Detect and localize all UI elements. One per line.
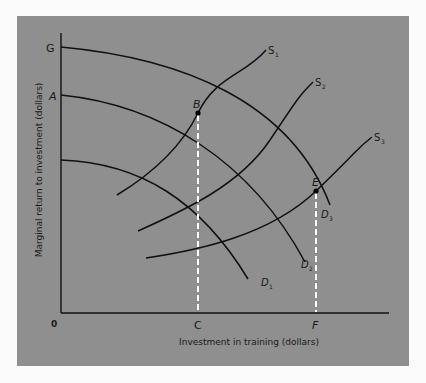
svg-text:D: D — [261, 277, 269, 288]
svg-text:1: 1 — [269, 283, 273, 290]
axes — [61, 33, 389, 313]
label-c: C — [194, 319, 202, 332]
point-b-marker — [195, 110, 200, 115]
svg-text:2: 2 — [322, 83, 326, 90]
label-a: A — [48, 90, 57, 103]
supply-curve-s1 — [117, 50, 266, 195]
diagram-canvas: G A 0 C F B E S 1 S 2 S 3 D 3 D 2 D 1 In… — [0, 0, 426, 383]
svg-text:3: 3 — [329, 215, 333, 222]
label-s2: S 2 — [315, 77, 326, 90]
label-b: B — [193, 98, 201, 111]
label-d3: D 3 — [321, 209, 333, 222]
label-d1: D 1 — [261, 277, 273, 290]
label-e: E — [312, 176, 319, 189]
svg-text:S: S — [268, 45, 274, 56]
label-d2: D 2 — [301, 259, 313, 272]
svg-text:D: D — [321, 209, 329, 220]
svg-text:D: D — [301, 259, 309, 270]
x-axis-title: Investment in training (dollars) — [179, 337, 319, 347]
svg-text:2: 2 — [309, 265, 313, 272]
point-e-marker — [313, 188, 318, 193]
label-f: F — [312, 319, 319, 332]
label-s3: S 3 — [374, 132, 385, 145]
supply-curve-s2 — [138, 82, 313, 231]
svg-text:3: 3 — [381, 138, 385, 145]
y-axis-title: Marginal return to investment (dollars) — [34, 83, 44, 258]
label-origin: 0 — [51, 319, 57, 329]
label-s1: S 1 — [268, 45, 279, 58]
svg-text:S: S — [374, 132, 380, 143]
svg-text:1: 1 — [275, 51, 279, 58]
label-g: G — [46, 42, 55, 55]
demand-curve-d1 — [61, 160, 248, 279]
demand-curve-d3 — [61, 47, 330, 205]
svg-text:S: S — [315, 77, 321, 88]
